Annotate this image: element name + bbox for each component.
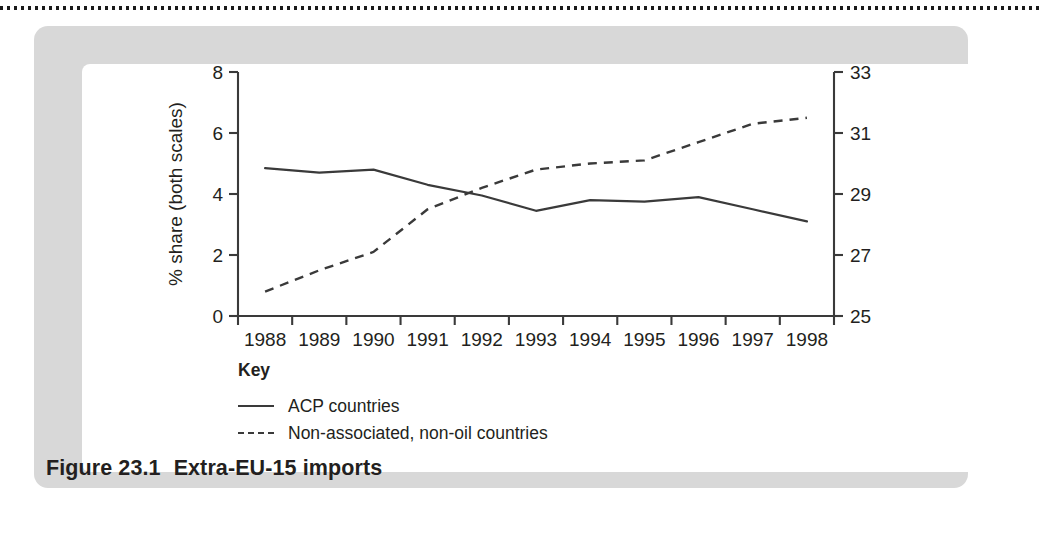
x-axis-tick-label: 1989 [298, 329, 340, 350]
legend: Key ACP countries Non-associated, non-oi… [238, 360, 658, 448]
legend-title: Key [238, 360, 658, 381]
series-line-1 [265, 168, 807, 221]
right-axis-tick-label: 29 [850, 184, 871, 205]
x-axis-tick-label: 1997 [732, 329, 774, 350]
legend-swatch-solid-icon [238, 405, 274, 407]
axes-group [229, 72, 843, 325]
x-axis-tick-label: 1995 [623, 329, 665, 350]
figure-caption-text: Extra-EU-15 imports [174, 456, 383, 480]
x-axis-tick-label: 1992 [461, 329, 503, 350]
right-axis-tick-label: 33 [850, 62, 871, 83]
right-axis-tick-label: 27 [850, 245, 871, 266]
x-axis-tick-label: 1994 [569, 329, 612, 350]
left-axis-tick-label: 4 [212, 184, 223, 205]
left-axis-tick-label: 6 [212, 123, 223, 144]
series-group [265, 118, 807, 292]
x-axis-tick-label: 1993 [515, 329, 557, 350]
legend-label-acp: ACP countries [288, 396, 400, 417]
right-axis-tick-label: 31 [850, 123, 871, 144]
right-axis-tick-label: 25 [850, 306, 871, 327]
legend-item-acp: ACP countries [238, 394, 658, 418]
series-line-2 [265, 118, 807, 292]
figure-caption: Figure 23.1Extra-EU-15 imports [46, 456, 966, 490]
legend-label-non-associated: Non-associated, non-oil countries [288, 423, 548, 444]
x-axis-tick-label: 1990 [352, 329, 394, 350]
left-axis-tick-label: 8 [212, 62, 223, 83]
figure-caption-number: Figure 23.1 [46, 456, 161, 480]
left-axis-tick-label: 2 [212, 245, 223, 266]
y-axis-title: % share (both scales) [165, 102, 186, 286]
legend-item-non-associated: Non-associated, non-oil countries [238, 421, 658, 445]
legend-swatch-dashed-icon [238, 432, 274, 434]
x-axis-tick-label: 1988 [244, 329, 286, 350]
x-axis-tick-label: 1996 [677, 329, 719, 350]
left-axis-tick-label: 0 [212, 306, 223, 327]
x-axis-tick-label: 1991 [406, 329, 448, 350]
x-axis-tick-label: 1998 [786, 329, 828, 350]
